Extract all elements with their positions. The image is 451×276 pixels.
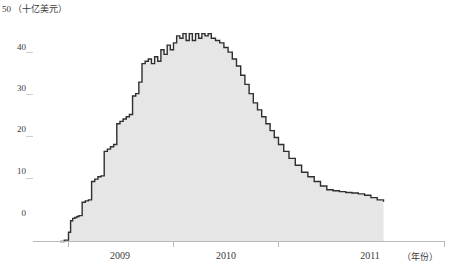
x-tick-label-2011: 2011 <box>340 250 400 261</box>
y-tick-label-0: 0 <box>0 208 26 218</box>
y-axis-top-tick-label: 50 <box>2 4 11 14</box>
y-tick-label-40: 40 <box>0 42 26 52</box>
x-axis-unit-label: （年份） <box>402 250 438 263</box>
y-tick-label-30: 30 <box>0 83 26 93</box>
y-axis-unit-text: （十亿美元） <box>13 4 67 14</box>
area-chart: 50 （十亿美元） 40 30 20 10 0 2009 2010 2011 （… <box>0 0 451 276</box>
x-tick-label-2009: 2009 <box>90 250 150 261</box>
y-tick-label-20: 20 <box>0 124 26 134</box>
plot-area <box>0 0 451 276</box>
y-tick-label-10: 10 <box>0 166 26 176</box>
x-tick-label-2010: 2010 <box>196 250 256 261</box>
area-fill <box>60 34 383 242</box>
y-axis-unit-label: 50 （十亿美元） <box>2 2 67 15</box>
